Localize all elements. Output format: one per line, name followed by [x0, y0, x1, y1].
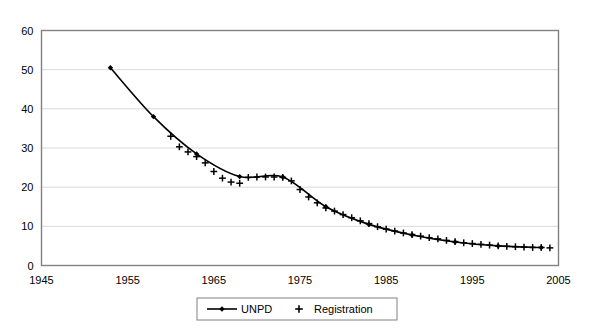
x-tick-label: 1945: [29, 274, 53, 286]
chart-container: 0102030405060 19451955196519751985199520…: [0, 0, 594, 330]
x-tick-label: 1995: [460, 274, 484, 286]
x-tick-label: 1955: [115, 274, 139, 286]
y-tick-label: 40: [21, 103, 33, 115]
x-tick-label: 1975: [288, 274, 312, 286]
y-tick-label: 0: [27, 260, 33, 272]
x-tick-label: 1965: [202, 274, 226, 286]
legend-label-registration: Registration: [314, 303, 373, 315]
y-tick-label: 60: [21, 25, 33, 37]
legend-label-unpd: UNPD: [241, 303, 272, 315]
x-tick-label: 2005: [546, 274, 570, 286]
y-tick-label: 30: [21, 142, 33, 154]
legend: UNPDRegistration: [197, 298, 397, 320]
line-chart: 0102030405060 19451955196519751985199520…: [0, 0, 594, 330]
y-tick-label: 20: [21, 181, 33, 193]
x-tick-label: 1985: [374, 274, 398, 286]
y-tick-label: 10: [21, 220, 33, 232]
y-tick-label: 50: [21, 64, 33, 76]
